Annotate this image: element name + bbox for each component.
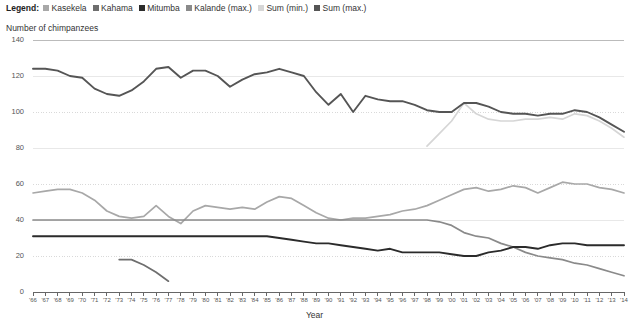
- series-line-mitumba[interactable]: [33, 236, 624, 256]
- y-tick-label-140: 140: [2, 35, 24, 44]
- plot-area: 020406080100120140'66'67'68'69'70'71'72'…: [0, 0, 629, 325]
- y-tick-label-100: 100: [2, 107, 24, 116]
- gridlines: [33, 40, 624, 292]
- x-axis: [33, 292, 624, 296]
- series-line-kasekela[interactable]: [33, 182, 624, 223]
- y-tick-label-80: 80: [2, 143, 24, 152]
- y-tick-label-40: 40: [2, 215, 24, 224]
- series-line-sum-max[interactable]: [33, 67, 624, 132]
- chart-page: Legend: Kasekela Kahama Mitumba Kalande …: [0, 0, 629, 325]
- x-axis-title: Year: [0, 310, 629, 320]
- y-tick-label-0: 0: [2, 287, 24, 296]
- y-tick-label-60: 60: [2, 179, 24, 188]
- series-group: [33, 67, 624, 281]
- chart-svg: [0, 0, 629, 325]
- series-line-kahama[interactable]: [119, 260, 168, 282]
- x-tick-label-14: '14: [616, 297, 629, 303]
- y-tick-label-20: 20: [2, 251, 24, 260]
- y-tick-label-120: 120: [2, 71, 24, 80]
